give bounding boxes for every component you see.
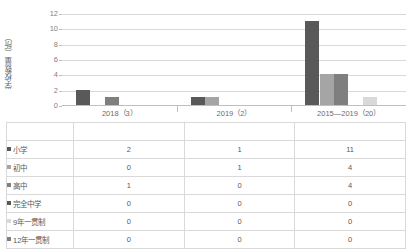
table-value-cell: 0 [74, 195, 185, 213]
series-name: 9年一贯制 [13, 218, 45, 227]
table-row: 小学2111 [7, 141, 406, 159]
y-axis-tick-label: 10 [38, 26, 58, 34]
table-series-label-cell: 9年一贯制 [7, 213, 74, 231]
plot-area [62, 14, 406, 106]
legend-swatch-icon [7, 165, 11, 169]
bar [305, 21, 319, 105]
table-value-cell: 0 [74, 213, 185, 231]
table-value-cell: 0 [74, 159, 185, 177]
x-axis-category-labels: 2018（3）2019（2）2015—2019（20） [62, 108, 406, 122]
table-value-cell: 0 [184, 231, 295, 249]
bar [334, 74, 348, 105]
series-name: 12年一贯制 [13, 236, 49, 245]
table-value-cell: 0 [184, 177, 295, 195]
series-name: 完全中学 [13, 200, 41, 209]
table-series-label-cell: 完全中学 [7, 195, 74, 213]
y-axis-title: 学校数量（所） [2, 14, 16, 109]
table-value-cell: 0 [184, 195, 295, 213]
series-name: 高中 [13, 182, 27, 191]
y-axis-tick-label: 4 [38, 72, 58, 80]
table-header-spacer-row [7, 123, 406, 141]
table-value-cell: 11 [295, 141, 406, 159]
table-value-cell: 0 [184, 213, 295, 231]
legend-swatch-icon [7, 219, 11, 223]
table-value-cell: 1 [184, 159, 295, 177]
bar [205, 97, 219, 105]
bar-chart: 学校数量（所） 024681012 2018（3）2019（2）2015—201… [0, 0, 413, 126]
table-series-label-cell: 高中 [7, 177, 74, 195]
table-row: 高中104 [7, 177, 406, 195]
legend-swatch-icon [7, 147, 11, 151]
bar [363, 97, 377, 105]
table-row: 初中014 [7, 159, 406, 177]
x-axis-category-label: 2015—2019（20） [291, 108, 406, 120]
bar [105, 97, 119, 105]
table-value-cell: 0 [295, 213, 406, 231]
table-value-cell: 0 [74, 231, 185, 249]
table-series-label-cell: 12年一贯制 [7, 231, 74, 249]
table-value-cell: 2 [74, 141, 185, 159]
table-value-cell: 1 [74, 177, 185, 195]
legend-swatch-icon [7, 183, 11, 187]
table-value-cell: 0 [295, 231, 406, 249]
table-series-label-cell: 初中 [7, 159, 74, 177]
y-axis-tickmark [59, 106, 62, 107]
bar [191, 97, 205, 105]
y-axis-tick-label: 12 [38, 10, 58, 18]
bar-series-group [62, 14, 406, 106]
y-axis-tick-label: 6 [38, 56, 58, 64]
series-name: 小学 [13, 146, 27, 155]
table-value-cell: 4 [295, 159, 406, 177]
table-value-cell: 0 [295, 195, 406, 213]
data-table: 小学2111初中014高中104完全中学0009年一贯制00012年一贯制000 [6, 122, 406, 249]
x-axis-category-label: 2019（2） [177, 108, 292, 120]
chart-page: 学校数量（所） 024681012 2018（3）2019（2）2015—201… [0, 0, 413, 251]
table-series-label-cell: 小学 [7, 141, 74, 159]
bar [76, 90, 90, 105]
bar [320, 74, 334, 105]
y-axis-tick-label: 8 [38, 41, 58, 49]
table-value-cell: 1 [184, 141, 295, 159]
table-row: 完全中学000 [7, 195, 406, 213]
series-name: 初中 [13, 164, 27, 173]
y-axis-tick-label: 2 [38, 87, 58, 95]
table-row: 9年一贯制000 [7, 213, 406, 231]
y-axis-tick-labels: 024681012 [38, 14, 58, 106]
x-axis-category-label: 2018（3） [62, 108, 177, 120]
y-axis-tick-label: 0 [38, 102, 58, 110]
legend-swatch-icon [7, 237, 11, 241]
table-row: 12年一贯制000 [7, 231, 406, 249]
legend-swatch-icon [7, 201, 11, 205]
table-value-cell: 4 [295, 177, 406, 195]
